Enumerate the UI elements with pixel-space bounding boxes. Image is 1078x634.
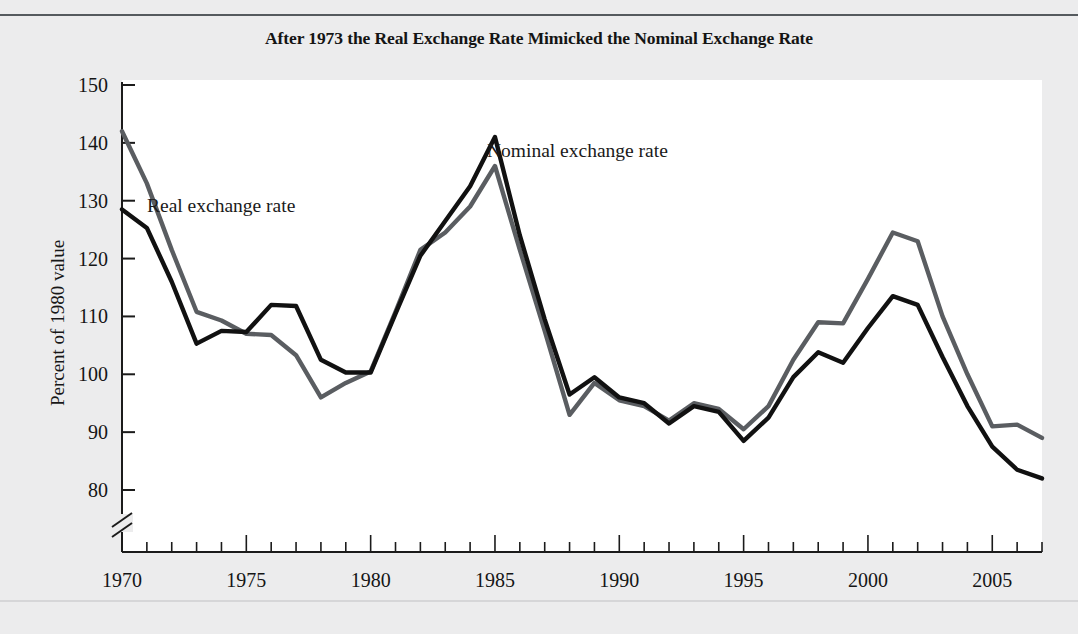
y-tick-label: 140: [78, 132, 108, 154]
y-tick-label: 100: [78, 363, 108, 385]
nominal-series-label: Nominal exchange rate: [487, 140, 668, 161]
y-tick-label: 90: [88, 421, 108, 443]
y-tick-label: 150: [78, 74, 108, 96]
plot-area: 8090100110120130140150 19701975198019851…: [0, 0, 1078, 634]
y-tick-label: 130: [78, 190, 108, 212]
real-series-label: Real exchange rate: [147, 195, 295, 216]
y-tick-label: 80: [88, 479, 108, 501]
x-tick-label: 1990: [599, 569, 639, 591]
x-tick-label: 2005: [972, 569, 1012, 591]
x-tick-label: 1995: [724, 569, 764, 591]
x-tick-label: 2000: [848, 569, 888, 591]
x-tick-label: 1970: [102, 569, 142, 591]
figure-container: After 1973 the Real Exchange Rate Mimick…: [0, 0, 1078, 634]
x-tick-label: 1985: [475, 569, 515, 591]
x-tick-label: 1980: [351, 569, 391, 591]
y-tick-label: 110: [79, 305, 108, 327]
x-tick-label: 1975: [226, 569, 266, 591]
y-tick-label: 120: [78, 248, 108, 270]
y-axis-label: Percent of 1980 value: [47, 113, 69, 533]
